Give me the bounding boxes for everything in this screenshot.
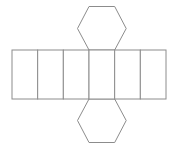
lateral-face-1 — [12, 50, 38, 99]
hexagonal-prism-net-figure: Hexagonal Prism Net Two-dimensional net … — [0, 0, 175, 152]
lateral-face-4 — [89, 50, 115, 99]
lateral-face-3 — [63, 50, 89, 99]
lateral-face-5 — [115, 50, 141, 99]
lateral-faces-strip — [12, 50, 166, 99]
lateral-face-2 — [38, 50, 64, 99]
lateral-face-6 — [140, 50, 166, 99]
